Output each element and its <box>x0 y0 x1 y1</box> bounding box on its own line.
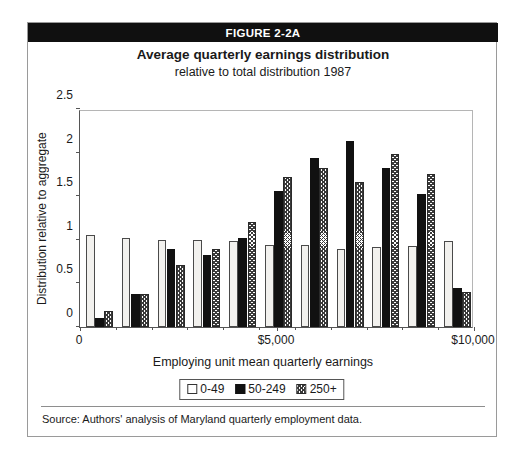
bar <box>310 158 319 327</box>
bar-group <box>86 111 113 327</box>
x-axis-minor-tick-mark <box>438 327 439 330</box>
x-axis-minor-tick-mark <box>223 327 224 330</box>
bar <box>453 288 462 327</box>
x-axis-tick-label: $5,000 <box>258 333 295 347</box>
bar <box>337 249 346 327</box>
bar <box>203 255 212 327</box>
bars-layer <box>80 111 472 327</box>
bar-group <box>265 111 292 327</box>
x-axis-minor-tick-mark <box>367 327 368 330</box>
chart-legend: 0-4950-249250+ <box>179 379 344 400</box>
figure-number-label: FIGURE 2-2A <box>226 27 301 39</box>
bar <box>158 240 167 327</box>
bar <box>248 222 257 328</box>
x-axis-tick-label: $10,000 <box>451 333 494 347</box>
legend-swatch-icon <box>235 384 245 394</box>
bar <box>274 191 283 327</box>
bar-group <box>408 111 435 327</box>
x-axis-minor-tick-mark <box>331 327 332 330</box>
bar <box>131 294 140 327</box>
bar <box>462 292 471 327</box>
figure-header-band: FIGURE 2-2A <box>28 23 498 42</box>
bar <box>382 168 391 327</box>
bar <box>140 294 149 327</box>
x-axis-minor-tick-mark <box>187 327 188 330</box>
legend-swatch-icon <box>297 384 307 394</box>
bar-group <box>372 111 399 327</box>
x-axis-minor-tick-mark <box>402 327 403 330</box>
bar-group <box>337 111 364 327</box>
legend-label: 50-249 <box>248 382 285 396</box>
bar-group <box>229 111 256 327</box>
x-axis-title: Employing unit mean quarterly earnings <box>28 355 498 369</box>
plot-area: 00.511.522.5 <box>79 110 473 328</box>
legend-label: 250+ <box>310 382 337 396</box>
bar <box>229 241 238 327</box>
y-axis-tick-label: 2.5 <box>56 88 80 102</box>
legend-item: 0-49 <box>187 382 224 396</box>
bar-group <box>444 111 471 327</box>
bar <box>319 168 328 327</box>
bar <box>346 141 355 327</box>
source-note: Source: Authors' analysis of Maryland qu… <box>42 413 362 425</box>
bar <box>95 318 104 327</box>
y-axis-tick-label: 2 <box>66 132 80 146</box>
bar-group <box>122 111 149 327</box>
y-axis-tick-label: 0 <box>66 306 80 320</box>
bar-group <box>158 111 185 327</box>
bar <box>86 235 95 327</box>
y-axis-title: Distribution relative to aggregate <box>34 110 50 328</box>
bar <box>391 154 400 327</box>
legend-item: 250+ <box>297 382 337 396</box>
bar-group <box>193 111 220 327</box>
bar <box>238 238 247 327</box>
x-axis-minor-tick-mark <box>259 327 260 330</box>
chart-subtitle: relative to total distribution 1987 <box>28 65 498 79</box>
bar <box>355 182 364 327</box>
bar <box>408 246 417 327</box>
bar <box>283 177 292 327</box>
y-axis-tick-label: 0.5 <box>56 262 80 276</box>
bar <box>417 194 426 327</box>
legend-item: 50-249 <box>235 382 285 396</box>
bar <box>193 240 202 327</box>
source-divider <box>41 406 485 407</box>
bar <box>427 174 436 327</box>
y-axis-tick-label: 1 <box>66 219 80 233</box>
bar <box>212 249 221 327</box>
bar <box>176 265 185 327</box>
bar <box>265 245 274 327</box>
x-axis-minor-tick-mark <box>474 327 475 330</box>
x-axis-minor-tick-mark <box>295 327 296 330</box>
bar <box>104 311 113 327</box>
chart-title: Average quarterly earnings distribution <box>28 47 498 62</box>
figure-container: FIGURE 2-2A Average quarterly earnings d… <box>27 22 497 437</box>
bar-group <box>301 111 328 327</box>
legend-label: 0-49 <box>200 382 224 396</box>
x-axis-tick-label: 0 <box>76 333 83 347</box>
x-axis-minor-tick-mark <box>116 327 117 330</box>
bar <box>372 247 381 327</box>
plot-inner: 00.511.522.5 <box>80 111 472 327</box>
bar <box>122 238 131 327</box>
x-axis-minor-tick-mark <box>152 327 153 330</box>
bar <box>301 245 310 327</box>
x-axis-minor-tick-mark <box>80 327 81 330</box>
legend-swatch-icon <box>187 384 197 394</box>
y-axis-tick-label: 1.5 <box>56 175 80 189</box>
y-axis-tick-mark <box>76 108 80 109</box>
bar <box>444 241 453 327</box>
bar <box>167 249 176 327</box>
x-axis-tick-mark <box>277 327 278 331</box>
